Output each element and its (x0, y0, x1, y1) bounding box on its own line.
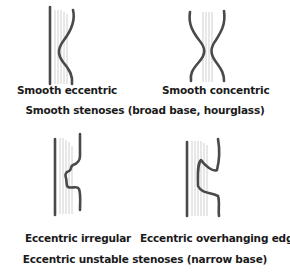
concentric-right-wall (212, 11, 225, 81)
irregular-plaque-wall (65, 134, 80, 210)
concentric-left-wall (190, 12, 205, 81)
panel-label-smooth-concentric: Smooth concentric (162, 84, 269, 97)
smooth-concentric-illustration (190, 11, 225, 82)
panel-label-eccentric-overhanging-edges: Eccentric overhanging edges (140, 232, 290, 245)
section-caption-eccentric-unstable-stenoses: Eccentric unstable stenoses (narrow base… (0, 253, 290, 266)
eccentric-irregular-illustration (55, 134, 80, 215)
flow-lines (192, 141, 207, 216)
smooth-eccentric-illustration (50, 7, 74, 84)
panel-label-smooth-eccentric: Smooth eccentric (17, 84, 117, 97)
eccentric-overhanging-illustration (187, 139, 219, 216)
stenosis-diagram: Smooth eccentric Smooth concentric Smoot… (0, 0, 290, 274)
section-caption-smooth-stenoses: Smooth stenoses (broad base, hourglass) (0, 104, 290, 117)
panel-label-eccentric-irregular: Eccentric irregular (25, 232, 131, 245)
